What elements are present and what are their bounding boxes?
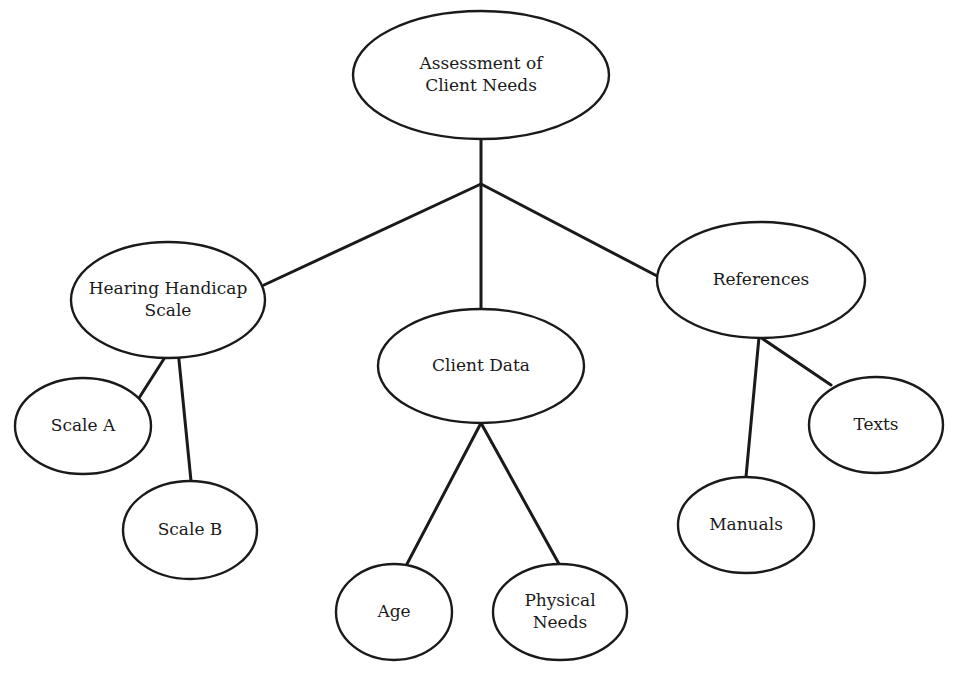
node-label: Scale A (51, 415, 116, 435)
node-label: Client Data (432, 355, 530, 375)
node-label: Texts (853, 414, 898, 434)
node-client-data: Client Data (378, 309, 584, 423)
node-physical: PhysicalNeeds (493, 564, 627, 660)
node-label: Scale B (158, 519, 223, 539)
node-age: Age (336, 564, 452, 660)
node-label: Physical (524, 590, 595, 610)
node-label: Manuals (709, 514, 783, 534)
node-label: Hearing Handicap (89, 278, 248, 298)
edge-references-to-manuals (746, 337, 759, 477)
node-label: Needs (533, 612, 588, 632)
edge-junction-to-hearing (264, 184, 481, 285)
node-texts: Texts (809, 377, 943, 473)
edge-client-data-to-age (407, 423, 481, 564)
edge-references-to-texts (760, 337, 831, 385)
tree-diagram: Assessment ofClient NeedsHearing Handica… (0, 0, 958, 675)
nodes: Assessment ofClient NeedsHearing Handica… (15, 11, 943, 660)
node-scale-b: Scale B (123, 481, 257, 579)
node-manuals: Manuals (678, 477, 814, 573)
node-label: Assessment of (418, 53, 544, 73)
node-label: Client Needs (425, 75, 537, 95)
node-label: Scale (145, 300, 192, 320)
node-label: References (713, 269, 810, 289)
edge-hearing-to-scale-b (177, 340, 191, 481)
node-assessment: Assessment ofClient Needs (353, 11, 609, 139)
node-scale-a: Scale A (15, 378, 151, 474)
edge-client-data-to-physical (481, 423, 559, 564)
node-hearing: Hearing HandicapScale (71, 242, 265, 358)
node-references: References (657, 222, 865, 338)
node-label: Age (376, 601, 410, 621)
edge-junction-to-references (481, 184, 659, 277)
